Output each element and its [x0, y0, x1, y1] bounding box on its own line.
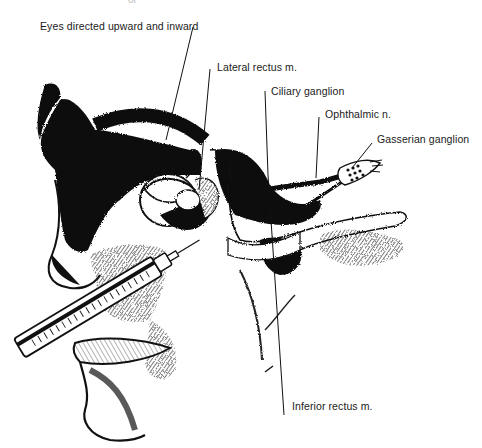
lips [74, 338, 170, 440]
cropped-caption-fragment: or [128, 0, 137, 5]
leader-ciliary-ganglion [265, 91, 268, 175]
label-gasserian-ganglion: Gasserian ganglion [377, 133, 469, 145]
label-eyes-directed-upward-and-inward: Eyes directed upward and inward [40, 20, 198, 32]
gasserian-ganglion-shape [338, 160, 383, 185]
label-ciliary-ganglion: Ciliary ganglion [271, 85, 344, 97]
label-lateral-rectus: Lateral rectus m. [217, 61, 297, 73]
jaw-line [265, 295, 295, 330]
label-inferior-rectus: Inferior rectus m. [292, 400, 373, 412]
leader-ophthalmic-n [316, 117, 319, 178]
label-ophthalmic-n: Ophthalmic n. [325, 108, 391, 120]
face-shading [38, 83, 404, 379]
anatomy-illustration: or Eyes directed upward and inward Later… [0, 0, 482, 448]
